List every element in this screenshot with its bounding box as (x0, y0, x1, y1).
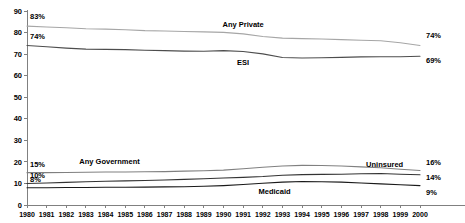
y-axis: 0102030405060708090 (14, 7, 27, 210)
line-chart: 0102030405060708090 19801981198219831984… (0, 0, 465, 223)
y-tick-label: 60 (14, 71, 22, 80)
x-tick-label: 1982 (59, 211, 75, 218)
x-axis: 1980198119821983198419851986198719881989… (19, 205, 465, 218)
chart-canvas: 0102030405060708090 19801981198219831984… (0, 0, 465, 223)
x-tick-label: 1993 (275, 211, 291, 218)
x-tick-label: 1983 (78, 211, 94, 218)
end-value-label: 9% (426, 188, 437, 197)
start-value-label: 15% (30, 160, 45, 169)
x-tick-label: 1984 (98, 211, 114, 218)
x-tick-label: 1990 (216, 211, 232, 218)
y-tick-label: 70 (14, 50, 22, 59)
end-value-label: 16% (426, 158, 441, 167)
series-name-label-uninsured: Uninsured (366, 160, 404, 169)
y-tick-label: 30 (14, 136, 22, 145)
x-tick-label: 1988 (176, 211, 192, 218)
x-tick-label: 1989 (196, 211, 212, 218)
x-tick-label: 1999 (393, 211, 409, 218)
y-tick-label: 0 (18, 201, 22, 210)
x-tick-label: 1998 (373, 211, 389, 218)
x-tick-label: 1981 (39, 211, 55, 218)
end-value-label: 69% (426, 56, 441, 65)
x-tick-label: 1997 (353, 211, 369, 218)
series-line-esi (27, 45, 420, 58)
x-tick-label: 1994 (294, 211, 310, 218)
series-line-medicaid (27, 182, 420, 188)
x-tick-label: 1996 (334, 211, 350, 218)
y-tick-label: 80 (14, 28, 22, 37)
x-tick-label: 1980 (19, 211, 35, 218)
x-tick-label: 1986 (137, 211, 153, 218)
series-name-label-medicaid: Medicaid (259, 187, 292, 196)
x-tick-label: 1992 (255, 211, 271, 218)
x-tick-label: 1985 (117, 211, 133, 218)
series-name-label-esi: ESI (237, 58, 249, 67)
series-line-uninsured (27, 174, 420, 184)
x-tick-label: 1995 (314, 211, 330, 218)
series-line-any-government (27, 165, 420, 172)
end-value-label: 14% (426, 173, 441, 182)
y-tick-label: 20 (14, 158, 22, 167)
y-tick-label: 50 (14, 93, 22, 102)
series-name-label-any-government: Any Government (79, 157, 140, 166)
series-name-label-any-private: Any Private (223, 20, 264, 29)
x-tick-label: 2000 (412, 211, 428, 218)
y-tick-label: 10 (14, 179, 22, 188)
series-line-any-private (27, 26, 420, 45)
x-tick-label: 1987 (157, 211, 173, 218)
start-value-label: 8% (30, 175, 41, 184)
y-tick-label: 40 (14, 114, 22, 123)
x-tick-label: 1991 (235, 211, 251, 218)
end-value-label: 74% (426, 31, 441, 40)
y-tick-label: 90 (14, 7, 22, 16)
start-value-label: 83% (30, 12, 45, 21)
start-value-label: 74% (30, 32, 45, 41)
